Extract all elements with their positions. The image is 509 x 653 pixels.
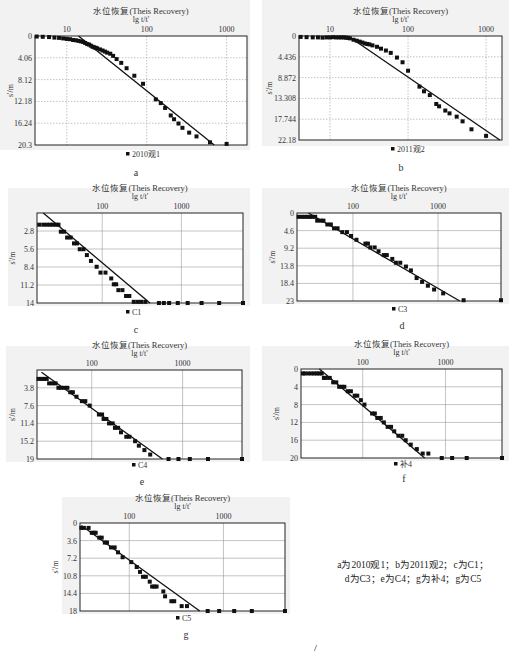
legend-label: C5: [182, 614, 191, 623]
figure-note-line-2: d为C3；e为C4；g为补4；g为C5: [318, 572, 508, 586]
y-tick-label: 10.8: [63, 572, 77, 581]
y-tick-label: 0: [73, 519, 77, 528]
panel-caption: g: [184, 629, 189, 640]
data-point: [105, 541, 109, 545]
data-point: [155, 585, 159, 589]
data-point: [161, 589, 165, 593]
data-point: [217, 609, 221, 613]
data-point: [113, 545, 117, 549]
legend-marker: [176, 616, 180, 620]
data-point: [148, 580, 152, 584]
figure-note: a为2010观1；b为2011观2；c为C1； d为C3；e为C4；g为补4；g…: [318, 558, 508, 586]
data-point: [87, 526, 91, 530]
data-point: [163, 594, 167, 598]
data-point: [232, 609, 236, 613]
data-point: [185, 604, 189, 608]
data-point: [206, 609, 210, 613]
figure-note-line-1: a为2010观1；b为2011观2；c为C1；: [318, 558, 508, 572]
y-tick-label: 14.4: [63, 589, 77, 598]
data-point: [138, 570, 142, 574]
data-point: [180, 604, 184, 608]
data-point: [129, 560, 133, 564]
y-axis-label: s'/m: [51, 560, 60, 574]
x-tick-label: 1000: [215, 512, 231, 521]
x-axis-label: lg t/t': [174, 502, 191, 511]
data-point: [94, 531, 98, 535]
data-point: [121, 555, 125, 559]
y-tick-label: 3.6: [67, 537, 77, 546]
data-point: [116, 550, 120, 554]
data-point: [144, 575, 148, 579]
data-point: [100, 536, 104, 540]
data-point: [250, 609, 254, 613]
chart-g: 水位恢复(Theis Recovery)lg t/t'03.67.210.814…: [0, 0, 509, 653]
data-point: [283, 609, 287, 613]
data-point: [135, 565, 139, 569]
data-point: [109, 545, 113, 549]
y-tick-label: 18: [69, 607, 77, 616]
data-point: [172, 599, 176, 603]
x-tick-label: 100: [123, 512, 135, 521]
chart-svg-g: 水位恢复(Theis Recovery)lg t/t'03.67.210.814…: [0, 0, 509, 653]
y-tick-label: 7.2: [67, 554, 77, 563]
data-point: [82, 526, 86, 530]
